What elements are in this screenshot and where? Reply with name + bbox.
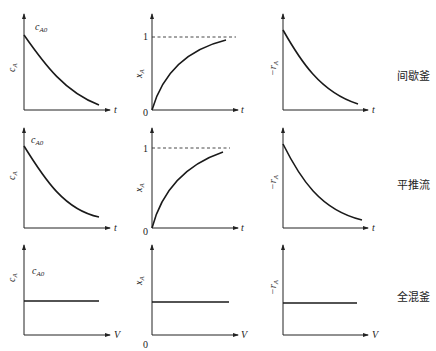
y-axis-label: xA xyxy=(133,276,146,286)
row1-col2-xa-plot: 1 0 xA t xyxy=(133,14,244,118)
origin-zero: 0 xyxy=(143,339,148,350)
x-axis-label: V xyxy=(114,329,122,340)
row-label-cstr: 全混釜 xyxy=(397,288,430,304)
row1-col1-ca-plot: cA0 cA t xyxy=(6,14,117,115)
origin-zero: 0 xyxy=(143,107,148,118)
ca-curve xyxy=(24,35,99,105)
row3-col1-ca-plot: cA0 cA V xyxy=(6,245,122,340)
y-axis-label: −rA xyxy=(267,279,280,295)
row-label-batch: 间歇釜 xyxy=(397,67,430,83)
y-axis-label: cA xyxy=(6,63,19,72)
x-axis-label: V xyxy=(241,329,249,340)
row2-col2-xa-plot: 1 0 xA t xyxy=(133,128,244,237)
y-axis-label: cA xyxy=(6,273,19,282)
x-axis-label: t xyxy=(114,222,117,233)
y-axis-label: cA xyxy=(6,171,19,180)
x-axis-label: t xyxy=(372,222,375,233)
xa-curve xyxy=(152,152,223,228)
y-axis-label: xA xyxy=(133,69,146,79)
row2-col3-rate-plot: −rA t xyxy=(267,128,375,233)
rate-curve xyxy=(283,30,358,104)
x-axis-label: t xyxy=(241,104,244,115)
x-axis-label: t xyxy=(241,222,244,233)
y-axis-label: −rA xyxy=(267,60,280,76)
ca0-annotation: cA0 xyxy=(35,21,48,34)
x-axis-label: t xyxy=(372,104,375,115)
xa-curve xyxy=(152,40,226,110)
row2-col1-ca-plot: cA0 cA t xyxy=(6,128,117,233)
row1-col3-rate-plot: −rA t xyxy=(267,14,375,115)
row3-col3-rate-plot: −rA V xyxy=(267,245,380,340)
x-axis-label: t xyxy=(114,104,117,115)
ca0-annotation: cA0 xyxy=(31,134,44,147)
ca0-annotation: cA0 xyxy=(32,265,45,278)
tick-one: 1 xyxy=(143,31,148,42)
reactor-comparison-diagram: cA0 cA t 1 0 xA t −rA t cA0 cA t 1 0 xA xyxy=(0,0,436,351)
row3-col2-xa-plot: 0 xA V xyxy=(133,245,249,350)
tick-one: 1 xyxy=(143,143,148,154)
ca-curve xyxy=(24,146,99,217)
row-label-pfr: 平推流 xyxy=(397,176,430,192)
x-axis-label: V xyxy=(372,329,380,340)
rate-curve xyxy=(283,144,362,220)
y-axis-label: xA xyxy=(133,183,146,193)
origin-zero: 0 xyxy=(143,226,148,237)
y-axis-label: −rA xyxy=(267,174,280,190)
